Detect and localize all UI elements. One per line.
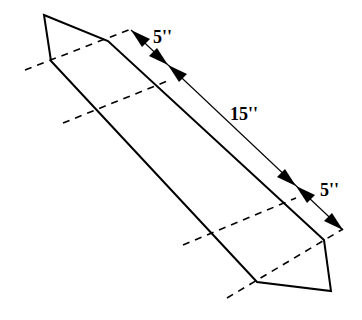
arrow-bottom-end-icon	[324, 213, 343, 230]
arrow-mid-end-icon	[277, 169, 296, 186]
dashed-reference-lines	[25, 29, 343, 298]
dashed-line-upper-middle	[63, 80, 170, 123]
dimension-line	[131, 30, 343, 230]
dashed-line-bottom	[227, 229, 343, 298]
dimension-label-bottom: 5''	[320, 180, 339, 200]
arrow-top-end-icon	[149, 48, 168, 65]
dimension-label-middle: 15''	[230, 104, 258, 124]
board-outline	[44, 15, 331, 291]
arrow-top-start-icon	[131, 30, 150, 47]
dashed-line-top	[25, 29, 131, 70]
dimension-label-top: 5''	[153, 27, 172, 47]
board-diagram: 5'' 15'' 5''	[0, 0, 362, 320]
